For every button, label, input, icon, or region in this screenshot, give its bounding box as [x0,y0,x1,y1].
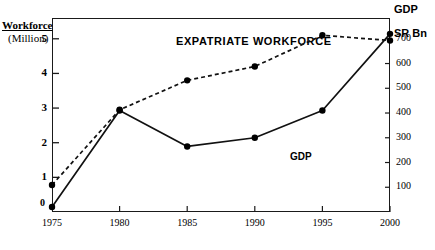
left-axis-zero-label: 0 [40,198,45,208]
x-axis-tick-1995: 1995 [299,218,345,228]
right-axis-title: GDP [394,4,418,15]
left-axis-tick-3: 3 [25,102,47,113]
right-axis-tick-400: 400 [396,107,426,117]
x-axis-tick-1985: 1985 [164,218,210,228]
left-axis-title: Workforce [2,20,53,31]
left-axis-tick-1: 1 [25,171,47,182]
right-axis-tick-500: 500 [396,82,426,92]
series-label-expatriate-workforce: EXPATRIATE WORKFORCE [176,36,332,47]
right-axis-tick-100: 100 [396,181,426,191]
right-axis-tick-600: 600 [396,58,426,68]
right-axis-tick-300: 300 [396,132,426,142]
left-axis-tick-5: 5 [25,33,47,44]
right-axis-tick-700: 700 [396,33,426,43]
left-axis-tick-2: 2 [25,137,47,148]
x-axis-tick-1980: 1980 [97,218,143,228]
series-label-gdp: GDP [290,152,312,162]
x-axis-tick-2000: 2000 [367,218,413,228]
plot-frame [52,18,390,212]
left-axis-tick-4: 4 [25,67,47,78]
x-axis-tick-1990: 1990 [232,218,278,228]
x-axis-tick-1975: 1975 [29,218,75,228]
expatriate-workforce-gdp-chart: Workforce (Million) GDP SR Bn 0 EXPATRIA… [0,0,435,250]
right-axis-tick-200: 200 [396,157,426,167]
